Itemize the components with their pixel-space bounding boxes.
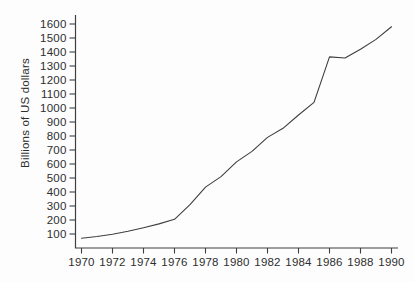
- y-tick-label: 1200: [40, 74, 66, 86]
- axes: [76, 15, 399, 248]
- x-tick-label: 1978: [192, 256, 218, 268]
- y-tick-label: 1300: [40, 60, 66, 72]
- line-chart: 1002003004005006007008009001000110012001…: [0, 0, 414, 282]
- y-tick-label: 600: [47, 158, 67, 170]
- y-tick-label: 1400: [40, 46, 66, 58]
- data-line: [82, 27, 392, 238]
- x-tick-label: 1990: [378, 256, 404, 268]
- y-axis-title: Billions of US dollars: [19, 58, 31, 168]
- x-tick-label: 1972: [99, 256, 125, 268]
- y-tick-label: 800: [47, 130, 67, 142]
- y-tick-label: 1500: [40, 32, 66, 44]
- y-tick-label: 400: [47, 186, 67, 198]
- x-tick-label: 1974: [130, 256, 157, 268]
- x-tick-label: 1980: [223, 256, 249, 268]
- y-tick-label: 200: [47, 214, 67, 226]
- x-tick-label: 1988: [347, 256, 373, 268]
- x-tick-label: 1984: [285, 256, 312, 268]
- y-tick-label: 100: [47, 228, 67, 240]
- y-tick-label: 300: [47, 200, 67, 212]
- y-tick-label: 1100: [41, 88, 67, 100]
- y-tick-label: 500: [47, 172, 67, 184]
- x-tick-label: 1970: [68, 256, 94, 268]
- x-tick-label: 1976: [161, 256, 187, 268]
- plot-area: 1002003004005006007008009001000110012001…: [40, 15, 405, 268]
- y-tick-label: 1000: [40, 102, 66, 114]
- y-tick-label: 700: [47, 144, 67, 156]
- y-tick-label: 900: [47, 116, 67, 128]
- x-tick-label: 1986: [316, 256, 342, 268]
- y-tick-label: 1600: [40, 18, 66, 30]
- x-tick-label: 1982: [254, 256, 280, 268]
- chart-figure: 1002003004005006007008009001000110012001…: [0, 0, 414, 282]
